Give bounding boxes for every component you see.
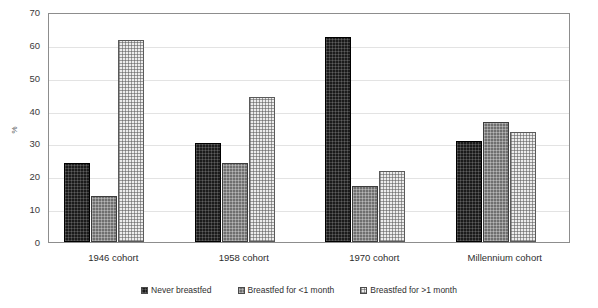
x-tick-label: 1970 cohort bbox=[309, 252, 440, 263]
y-tick-label: 60 bbox=[14, 41, 40, 51]
y-tick-label: 30 bbox=[14, 139, 40, 149]
x-tick-label: 1946 cohort bbox=[48, 252, 179, 263]
y-tick-label: 0 bbox=[14, 238, 40, 248]
bar-chart: % 706050403020100 1946 cohort1958 cohort… bbox=[0, 0, 598, 308]
bar bbox=[456, 141, 482, 242]
legend-label: Breastfed for <1 month bbox=[248, 285, 335, 295]
legend-item: Never breastfed bbox=[141, 285, 211, 295]
y-tick-label: 40 bbox=[14, 107, 40, 117]
legend-item: Breastfed for <1 month bbox=[238, 285, 335, 295]
y-tick-label: 70 bbox=[14, 8, 40, 18]
bar bbox=[510, 132, 536, 242]
bar bbox=[483, 122, 509, 242]
y-axis-label: % bbox=[2, 118, 26, 142]
x-tick-label: Millennium cohort bbox=[440, 252, 571, 263]
plot-area bbox=[48, 13, 570, 243]
bar-group bbox=[49, 14, 571, 242]
legend-swatch-icon bbox=[141, 287, 148, 294]
legend-swatch-icon bbox=[360, 287, 367, 294]
legend-swatch-icon bbox=[238, 287, 245, 294]
x-tick-label: 1958 cohort bbox=[179, 252, 310, 263]
y-tick-label: 20 bbox=[14, 172, 40, 182]
legend-item: Breastfed for >1 month bbox=[360, 285, 457, 295]
legend-label: Breastfed for >1 month bbox=[370, 285, 457, 295]
y-tick-label: 50 bbox=[14, 74, 40, 84]
y-tick-label: 10 bbox=[14, 205, 40, 215]
legend-label: Never breastfed bbox=[151, 285, 211, 295]
chart-legend: Never breastfedBreastfed for <1 monthBre… bbox=[0, 285, 598, 295]
